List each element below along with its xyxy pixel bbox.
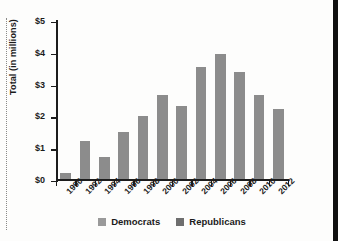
bar [215,54,226,179]
bar [196,67,207,179]
bar-chart: Total (in millions) $0$1$2$3$4$5 1990199… [0,0,300,241]
chart-legend: DemocratsRepublicans [56,216,288,227]
legend-label: Republicans [189,216,246,227]
bar [273,109,284,179]
bar [234,72,245,179]
legend-swatch-icon [176,218,184,226]
legend-item: Republicans [176,216,246,227]
y-tick-label: $0 [35,175,45,185]
x-axis-labels: 1990199219941996199820002002200420062008… [56,181,289,221]
bar-series [56,22,288,181]
legend-swatch-icon [98,218,106,226]
bar [80,141,91,179]
bar [118,132,129,180]
y-tick-label: $2 [35,111,45,121]
y-axis-title: Total (in millions) [8,0,18,117]
bar [138,116,149,180]
bar [99,157,110,179]
bar [176,106,187,180]
y-tick-label: $5 [35,16,45,26]
bar [60,173,71,179]
page-background: Total (in millions) $0$1$2$3$4$5 1990199… [0,0,342,241]
y-tick-label: $3 [35,80,45,90]
page-binding-edge [332,0,342,241]
y-tick-label: $1 [35,143,45,153]
bar [157,95,168,179]
legend-label: Democrats [111,216,160,227]
y-tick-label: $4 [35,48,45,58]
legend-item: Democrats [98,216,160,227]
plot-area: $0$1$2$3$4$5 199019921994199619982000200… [56,22,288,181]
bar [254,95,265,179]
